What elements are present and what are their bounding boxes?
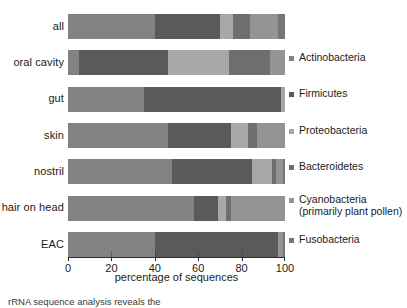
legend-swatch-icon — [289, 165, 294, 170]
bar-row — [68, 196, 285, 221]
bar-row — [68, 232, 285, 257]
bar-segment — [220, 14, 233, 39]
legend-swatch-icon — [289, 56, 294, 61]
stacked-bar — [68, 232, 285, 257]
bar-segment — [257, 123, 285, 148]
bar-segment — [68, 159, 172, 184]
x-axis: 020406080100 — [68, 257, 285, 258]
legend-item-cyanobacteria: Cyanobacteria(primarily plant pollen) — [289, 194, 402, 217]
bar-segment — [68, 196, 194, 221]
x-tick — [68, 257, 69, 261]
bar-segment — [68, 14, 155, 39]
bar-segment — [68, 87, 144, 112]
bar-segment — [172, 159, 252, 184]
legend-sublabel: (primarily plant pollen) — [299, 206, 402, 218]
stacked-bar — [68, 123, 285, 148]
bar-segment — [231, 123, 248, 148]
category-label-oral-cavity: oral cavity — [0, 56, 64, 68]
category-label-hair-on-head: hair on head — [0, 201, 64, 213]
x-axis-title: percentage of sequences — [68, 271, 285, 283]
plot-area — [68, 14, 285, 257]
bar-segment — [155, 232, 279, 257]
category-axis-labels: alloral cavitygutskinnostrilhair on head… — [0, 14, 64, 257]
legend-item-bacteroidetes: Bacteroidetes — [289, 161, 363, 173]
legend-item-actinobacteria: Actinobacteria — [289, 52, 366, 64]
legend-item-firmicutes: Firmicutes — [289, 88, 347, 100]
legend-label: Fusobacteria — [299, 234, 360, 246]
bar-row — [68, 14, 285, 39]
x-gridmark — [242, 251, 243, 257]
bar-segment — [233, 14, 250, 39]
category-label-EAC: EAC — [0, 238, 64, 250]
bar-segment — [168, 123, 231, 148]
legend-label: Firmicutes — [299, 88, 347, 100]
bar-segment — [250, 14, 278, 39]
category-label-skin: skin — [0, 129, 64, 141]
bar-segment — [283, 232, 285, 257]
category-label-gut: gut — [0, 92, 64, 104]
bar-row — [68, 50, 285, 75]
bar-segment — [168, 50, 229, 75]
category-label-all: all — [0, 20, 64, 32]
legend-swatch-icon — [289, 198, 294, 203]
bar-segment — [144, 87, 281, 112]
bar-segment — [68, 50, 79, 75]
figure-caption: rRNA sequence analysis reveals the — [8, 296, 404, 308]
bar-segment — [281, 87, 285, 112]
bar-segment — [283, 159, 285, 184]
bar-row — [68, 159, 285, 184]
legend-label: Bacteroidetes — [299, 161, 363, 173]
legend-item-fusobacteria: Fusobacteria — [289, 234, 360, 246]
bar-segment — [229, 50, 270, 75]
bar-segment — [248, 123, 257, 148]
legend-item-proteobacteria: Proteobacteria — [289, 125, 367, 137]
bar-segment — [68, 123, 168, 148]
figure-bar-chart: alloral cavitygutskinnostrilhair on head… — [0, 0, 407, 308]
bar-row — [68, 87, 285, 112]
legend-label: Actinobacteria — [299, 52, 366, 64]
x-gridmark — [198, 251, 199, 257]
stacked-bar — [68, 196, 285, 221]
bar-segment — [252, 159, 272, 184]
category-label-nostril: nostril — [0, 165, 64, 177]
legend-label: Cyanobacteria(primarily plant pollen) — [299, 194, 402, 217]
legend-swatch-icon — [289, 238, 294, 243]
bar-segment — [231, 196, 285, 221]
bar-segment — [218, 196, 227, 221]
stacked-bar — [68, 14, 285, 39]
stacked-bar — [68, 50, 285, 75]
x-tick — [111, 257, 112, 261]
x-tick — [242, 257, 243, 261]
bar-segment — [194, 196, 218, 221]
caption-text: rRNA sequence analysis reveals the — [8, 296, 161, 307]
legend-swatch-icon — [289, 129, 294, 134]
bar-row — [68, 123, 285, 148]
legend-swatch-icon — [289, 92, 294, 97]
x-tick — [155, 257, 156, 261]
bar-segment — [155, 14, 220, 39]
x-gridmark — [155, 251, 156, 257]
bar-segment — [278, 14, 285, 39]
x-gridmark — [111, 251, 112, 257]
bar-segment — [79, 50, 168, 75]
stacked-bar — [68, 87, 285, 112]
x-tick — [284, 257, 285, 261]
stacked-bar — [68, 159, 285, 184]
x-tick — [198, 257, 199, 261]
legend-label: Proteobacteria — [299, 125, 367, 137]
bar-segment — [270, 50, 285, 75]
